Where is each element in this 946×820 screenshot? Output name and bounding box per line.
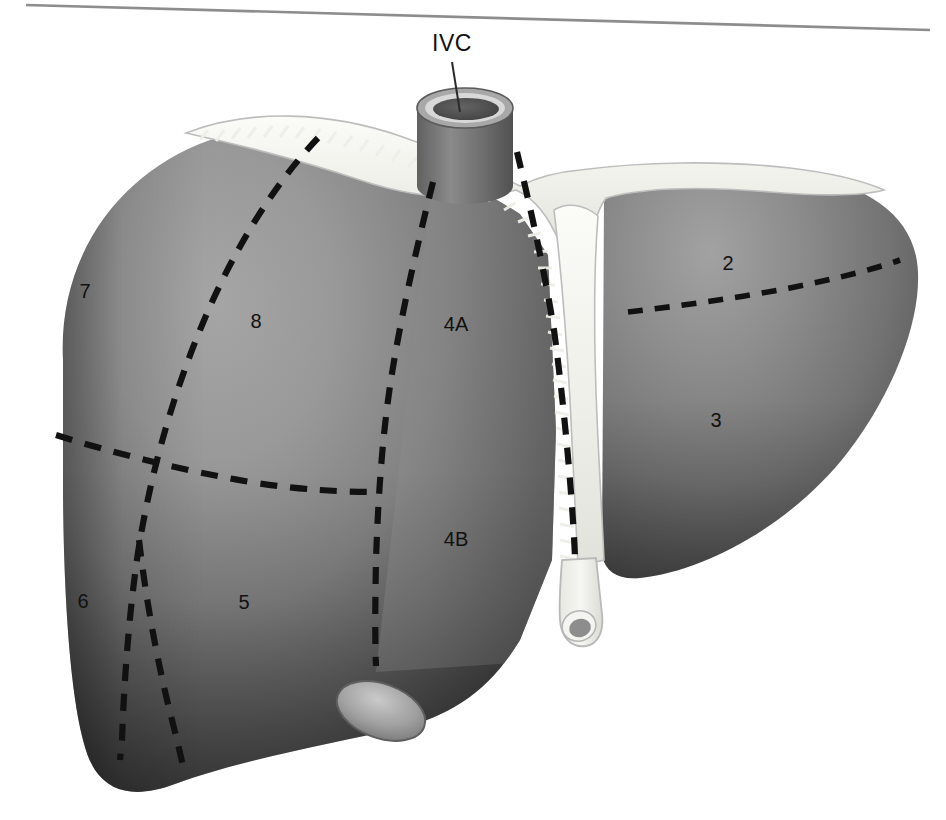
right-lobe xyxy=(55,120,575,820)
segment-5-label: 5 xyxy=(238,591,249,613)
header-rule xyxy=(26,5,930,30)
segment-4a-label: 4A xyxy=(444,313,469,335)
segment-4b-label: 4B xyxy=(444,528,468,550)
segment-8-label: 8 xyxy=(250,310,261,332)
ivc-lumen xyxy=(433,98,499,120)
segment-7-label: 7 xyxy=(79,280,90,302)
liver-anatomy-figure: IVC 7 8 4A 4B 6 5 2 3 xyxy=(0,0,946,820)
falciform-ligament xyxy=(554,205,604,646)
liver-illustration: IVC 7 8 4A 4B 6 5 2 3 xyxy=(0,0,946,820)
segment-2-label: 2 xyxy=(722,252,733,274)
falciform-ligament-band xyxy=(554,205,604,566)
segment-3-label: 3 xyxy=(710,409,721,431)
left-lobe-shading xyxy=(595,400,935,600)
ivc-label: IVC xyxy=(432,30,472,56)
left-lobe xyxy=(595,171,935,600)
segment-6-label: 6 xyxy=(77,590,88,612)
